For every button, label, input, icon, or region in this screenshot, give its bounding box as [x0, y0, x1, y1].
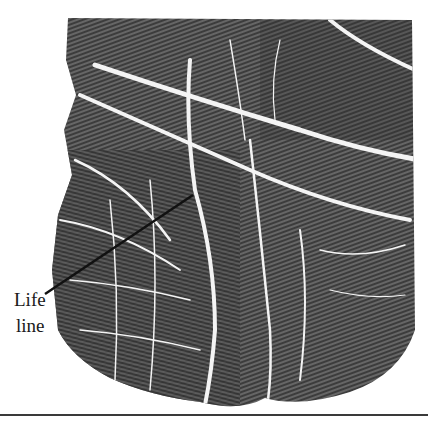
palm-print: [0, 0, 428, 427]
life-line-label-line2: line: [16, 314, 45, 338]
life-line-label-line1: Life: [14, 288, 46, 312]
bottom-rule-divider: [0, 414, 428, 416]
palm-print-figure: [0, 0, 428, 427]
